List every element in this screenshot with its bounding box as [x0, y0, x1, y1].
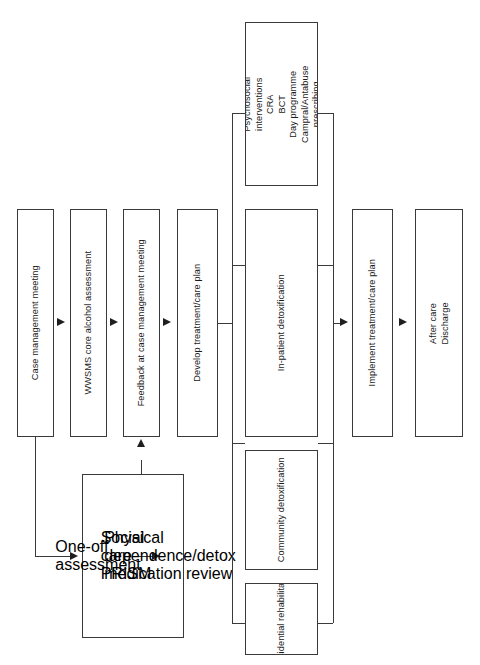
bus-stub-from-community-detox	[318, 443, 333, 444]
node-wwsms-core-alcohol-assessment[interactable]: WWSMS core alcohol assessment	[70, 209, 107, 437]
node-label: Psychosocial interventions CRA BCT Day p…	[245, 65, 318, 143]
node-psychosocial-interventions[interactable]: Psychosocial interventions CRA BCT Day p…	[245, 22, 318, 186]
bus-vertical-right	[333, 113, 334, 623]
arrow-feedback-to-develop-plan	[163, 318, 171, 326]
bus-stub-from-in-patient-detox	[318, 265, 333, 266]
node-case-management-meeting[interactable]: Case management meeting	[17, 209, 54, 437]
node-after-care-discharge[interactable]: After care Discharge	[415, 209, 463, 437]
arrow-cmm-to-wwsms	[57, 318, 65, 326]
node-label: Case management meeting	[30, 266, 42, 381]
arrow-into-one-off-assessment	[70, 552, 78, 560]
node-label: Community detoxification	[276, 458, 288, 563]
node-develop-treatment-care-plan[interactable]: Develop treatment/care plan	[177, 209, 218, 437]
bus-stub-to-in-patient-detox	[232, 265, 245, 266]
node-in-patient-detoxification[interactable]: In-patient detoxification	[245, 209, 318, 437]
arrow-into-feedback-box	[137, 439, 145, 447]
bus-stub-to-residential-rehab	[232, 623, 245, 624]
node-label: Implement treatment/care plan	[367, 259, 379, 386]
arrow-into-implement-plan	[340, 318, 348, 326]
loop-line-down-from-cmm	[35, 437, 36, 556]
node-label: Feedback at case management meeting	[136, 239, 148, 406]
node-feedback-at-case-management-meeting[interactable]: Feedback at case management meeting	[123, 209, 160, 437]
bus-stub-from-develop-plan	[218, 323, 233, 324]
loop-line-up-from-assessment	[141, 460, 142, 474]
bus-stub-from-psychosocial	[318, 113, 333, 114]
bus-vertical-left	[232, 113, 233, 623]
node-implement-treatment-care-plan[interactable]: Implement treatment/care plan	[352, 209, 393, 437]
node-label: After care Discharge	[427, 302, 450, 344]
bus-stub-to-psychosocial	[232, 113, 245, 114]
bus-stub-to-community-detox	[232, 443, 245, 444]
arrow-wwsms-to-feedback	[110, 318, 118, 326]
node-label: WWSMS core alcohol assessment	[83, 251, 95, 395]
node-community-detoxification[interactable]: Community detoxification	[245, 450, 318, 570]
node-label: Develop treatment/care plan	[192, 264, 204, 382]
node-label: Residential rehabilitation	[276, 583, 288, 655]
arrow-implement-to-after-care	[399, 318, 407, 326]
node-residential-rehabilitation[interactable]: Residential rehabilitation	[245, 583, 318, 655]
loop-line-right-to-assessment	[35, 556, 71, 557]
node-label: In-patient detoxification	[276, 275, 288, 372]
flowchart-canvas: Case management meeting WWSMS core alcoh…	[0, 0, 480, 665]
node-physical-dependence-review-label: Physical dependence/detox medication rev…	[156, 474, 184, 638]
bus-stub-from-residential-rehab	[318, 623, 333, 624]
